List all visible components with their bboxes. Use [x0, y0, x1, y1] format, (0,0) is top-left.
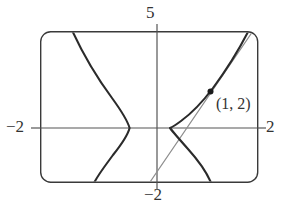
- x-axis-min-label: −2: [6, 118, 24, 135]
- x-axis-max-label: 2: [266, 118, 275, 135]
- y-axis-min-label: −2: [144, 186, 162, 203]
- y-axis-max-label: 5: [146, 4, 155, 21]
- tangency-point-label: (1, 2): [216, 96, 251, 112]
- tangency-point-marker: [208, 89, 214, 95]
